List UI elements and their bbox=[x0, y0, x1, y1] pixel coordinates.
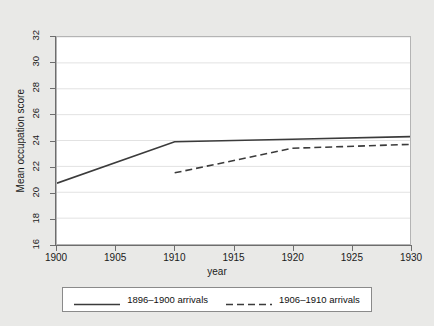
y-tick-label: 22 bbox=[31, 161, 41, 173]
x-axis-title: year bbox=[0, 266, 434, 277]
x-tick-label: 1920 bbox=[282, 253, 304, 263]
x-axis-title-text: year bbox=[207, 266, 226, 277]
chart-legend: 1896–1900 arrivals1906–1910 arrivals bbox=[62, 287, 372, 312]
legend-swatch-solid bbox=[74, 295, 120, 304]
x-tick bbox=[56, 245, 57, 251]
y-tick-label: 32 bbox=[31, 30, 41, 42]
y-axis-title: Mean occupation score bbox=[14, 36, 28, 245]
x-tick bbox=[115, 245, 116, 251]
x-tick-label: 1915 bbox=[222, 253, 244, 263]
y-axis-title-text: Mean occupation score bbox=[16, 89, 26, 192]
x-tick bbox=[411, 245, 412, 251]
x-tick-label: 1910 bbox=[163, 253, 185, 263]
y-tick-label: 24 bbox=[31, 134, 41, 146]
legend-swatch-dashed bbox=[226, 295, 272, 304]
y-tick-label: 26 bbox=[31, 108, 41, 120]
legend-entry-2: 1906–1910 arrivals bbox=[226, 295, 360, 305]
x-tick bbox=[352, 245, 353, 251]
plot-area bbox=[56, 36, 411, 245]
data-series-layer bbox=[57, 37, 410, 244]
legend-label: 1896–1900 arrivals bbox=[127, 295, 208, 305]
x-tick-label: 1925 bbox=[341, 253, 363, 263]
legend-entry-1: 1896–1900 arrivals bbox=[74, 295, 208, 305]
chart-figure: Mean occupation score 161820222426283032… bbox=[0, 0, 434, 326]
x-tick-label: 1900 bbox=[45, 253, 67, 263]
y-tick-label: 18 bbox=[31, 213, 41, 225]
y-tick-label: 20 bbox=[31, 187, 41, 199]
x-tick-label: 1930 bbox=[400, 253, 422, 263]
x-tick bbox=[174, 245, 175, 251]
legend-label: 1906–1910 arrivals bbox=[279, 295, 360, 305]
x-tick bbox=[293, 245, 294, 251]
y-tick-label: 16 bbox=[31, 239, 41, 251]
y-tick-label: 30 bbox=[31, 56, 41, 68]
x-axis bbox=[56, 245, 411, 251]
x-tick-label: 1905 bbox=[104, 253, 126, 263]
series-line-2 bbox=[175, 144, 410, 172]
y-tick-label: 28 bbox=[31, 82, 41, 94]
x-tick bbox=[234, 245, 235, 251]
